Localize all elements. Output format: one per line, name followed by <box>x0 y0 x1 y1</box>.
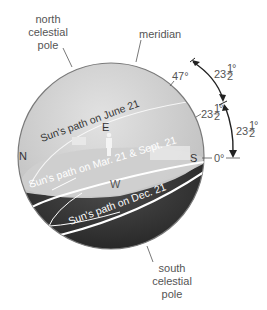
south-pole-label-2: celestial <box>152 275 192 287</box>
south-pole-label-3: pole <box>162 288 183 300</box>
direction-south: S <box>190 152 197 164</box>
angle-23-half-upper-label: 23 1 2 ° <box>214 62 236 82</box>
meridian-label: meridian <box>139 28 181 40</box>
south-pole-label: south <box>159 262 186 274</box>
svg-text:°: ° <box>254 119 258 131</box>
north-pole-label: north <box>35 13 60 25</box>
direction-east: E <box>102 121 109 133</box>
north-pole-leader <box>63 48 72 67</box>
angle-0-label: 0° <box>214 152 225 164</box>
angle-47-label: 47° <box>172 70 189 82</box>
direction-north: N <box>19 150 27 162</box>
meridian-leader <box>136 40 141 62</box>
svg-text:23: 23 <box>236 125 248 137</box>
north-pole-label-3: pole <box>38 39 59 51</box>
north-pole-label-2: celestial <box>28 26 68 38</box>
celestial-sphere-diagram: Sun's path on June 21 Sun's path on Mar.… <box>0 0 267 310</box>
svg-text:23: 23 <box>214 68 226 80</box>
direction-west: W <box>110 178 121 190</box>
svg-text:23: 23 <box>201 108 213 120</box>
south-pole-leader <box>147 246 153 262</box>
svg-text:°: ° <box>232 62 236 74</box>
angle-23-half-lower-label: 23 1 2 ° <box>236 119 258 139</box>
